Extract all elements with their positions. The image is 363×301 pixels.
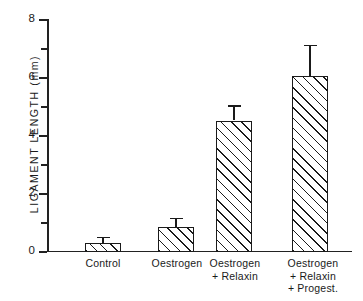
x-label-oestrogen-relaxin-progest: Oestrogen + Relaxin + Progest. xyxy=(268,257,358,295)
y-tick-2 xyxy=(39,193,47,195)
plot-area: 8 6 4 2 0 LIGAMENT LENGTH (mm) Contro xyxy=(0,0,363,301)
y-axis-title: LIGAMENT LENGTH (mm) xyxy=(28,39,40,229)
bar-control xyxy=(85,243,121,252)
y-tick-6 xyxy=(39,77,47,79)
y-tick-label-0: 0 xyxy=(29,244,35,257)
y-tick-0 xyxy=(39,251,47,253)
bar-oestrogen xyxy=(158,227,194,252)
error-bar-stem-2 xyxy=(233,105,234,120)
y-tick-4 xyxy=(39,135,47,137)
bar-chart: 8 6 4 2 0 LIGAMENT LENGTH (mm) Contro xyxy=(0,0,363,301)
error-bar-cap-2 xyxy=(228,105,241,106)
y-tick-minor-7 xyxy=(41,48,47,50)
bar-oestrogen-relaxin-progest xyxy=(292,76,328,252)
y-tick-minor-3 xyxy=(41,164,47,166)
y-tick-8 xyxy=(39,19,47,21)
error-bar-cap-1 xyxy=(170,218,183,219)
error-bar-cap-3 xyxy=(304,45,317,46)
y-tick-minor-5 xyxy=(41,106,47,108)
y-axis-line xyxy=(47,19,49,252)
error-bar-stem-3 xyxy=(309,45,310,75)
x-label-oestrogen-relaxin: Oestrogen + Relaxin xyxy=(194,257,276,282)
y-tick-label-8: 8 xyxy=(29,12,35,25)
x-label-control: Control xyxy=(63,257,143,270)
bar-oestrogen-relaxin xyxy=(216,121,252,253)
y-tick-minor-1 xyxy=(41,222,47,224)
error-bar-cap-0 xyxy=(97,237,110,238)
